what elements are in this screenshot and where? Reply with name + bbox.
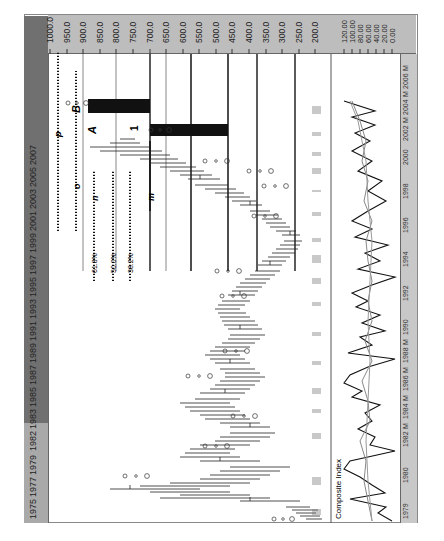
price-bars xyxy=(90,139,322,519)
glyph-cluster xyxy=(272,517,294,522)
label-m: m xyxy=(146,193,156,201)
fib-label-382: 38.2% xyxy=(127,253,134,273)
oscillator-axis-ticks xyxy=(344,49,392,54)
projection-lines xyxy=(58,51,150,281)
label-B: B xyxy=(70,105,82,113)
price-bar-ticks xyxy=(130,151,290,501)
glyph-cluster xyxy=(252,214,278,219)
glyph-cluster xyxy=(220,294,246,299)
glyph-cluster xyxy=(123,474,149,479)
support-resistance-lines xyxy=(83,54,295,271)
glyph-cluster xyxy=(262,184,288,189)
target-box-A xyxy=(150,124,228,136)
label-A: A xyxy=(86,126,98,135)
glyph-cluster xyxy=(231,414,257,419)
price-axis-ticks xyxy=(50,49,315,54)
glyph-cluster xyxy=(203,444,229,449)
planet-glyph-clusters xyxy=(66,101,294,522)
oscillator-lines xyxy=(344,101,395,521)
chart-canvas: B A o p n m 61.8% 50.0% 38.2% 1 xyxy=(0,0,444,541)
glyph-cluster xyxy=(186,374,212,379)
label-n: n xyxy=(90,195,100,201)
rotated-chart-stage: 1975 1977 1979 1982 1983 1985 1987 1989 … xyxy=(0,0,444,541)
fib-label-500: 50.0% xyxy=(110,253,117,273)
oscillator-title: Composite Index xyxy=(334,459,343,519)
target-box-B xyxy=(88,99,150,113)
glyph-cluster xyxy=(203,159,229,164)
label-o: o xyxy=(72,183,82,189)
fib-label-618: 61.8% xyxy=(91,253,98,273)
label-p: p xyxy=(53,131,63,138)
glyph-cluster xyxy=(247,169,273,174)
label-1: 1 xyxy=(129,125,140,131)
cycle-tick-clusters xyxy=(312,107,321,514)
